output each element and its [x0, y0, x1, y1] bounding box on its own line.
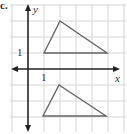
y-axis-down-arrow-icon: [25, 125, 31, 132]
y-axis-label: y: [33, 4, 38, 15]
x-tick-label: 1: [41, 72, 47, 83]
x-axis-label: x: [115, 73, 120, 84]
y-axis: [25, 4, 31, 132]
coordinate-plane: [0, 0, 127, 134]
y-tick-label: 1: [17, 47, 23, 58]
problem-letter: c.: [0, 0, 8, 11]
